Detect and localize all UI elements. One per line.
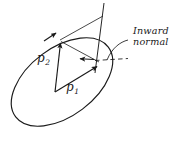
figure-background bbox=[0, 0, 180, 146]
inward-normal-label-line2: normal bbox=[133, 36, 169, 47]
inward-normal-arrow bbox=[80, 59, 94, 60]
figure-container: p2 p1 Inward normal bbox=[0, 0, 180, 146]
inward-normal-label-line1: Inward bbox=[132, 25, 169, 36]
inward-normal-diagram: p2 p1 Inward normal bbox=[0, 0, 180, 146]
